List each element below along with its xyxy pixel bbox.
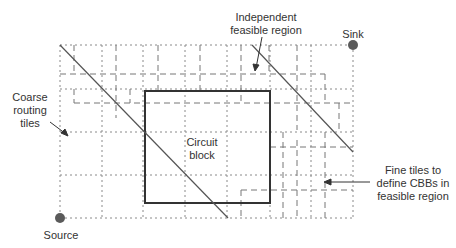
routing-diagram [0,0,456,248]
independent-region-label: Independent feasible region [228,11,304,37]
sink-label: Sink [336,28,370,41]
circuit-block-label: Circuit block [182,136,222,162]
feasible-boundary-upper [252,45,353,152]
fine-tiles-label: Fine tiles to define CBBs in feasible re… [370,164,456,203]
coarse-grid [60,45,353,218]
pointer-arrows [50,37,370,185]
source-label: Source [38,229,84,242]
coarse-tiles-label: Coarse routing tiles [10,91,50,130]
sink-terminal [348,40,358,50]
source-terminal [55,213,65,223]
